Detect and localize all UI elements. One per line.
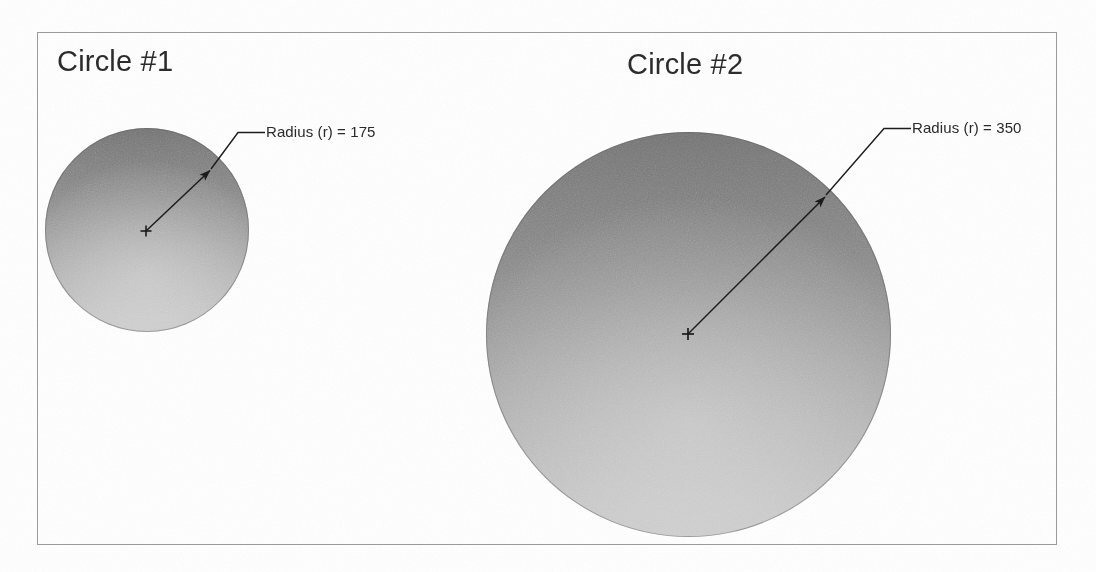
circle-1-radius-label: Radius (r) = 175 <box>266 124 376 139</box>
circle-1-vignette <box>45 128 249 332</box>
circle-1-title: Circle #1 <box>57 47 173 76</box>
circle-2-radius-label: Radius (r) = 350 <box>912 120 1022 135</box>
circle-2-vignette <box>486 132 891 537</box>
page-background: Circle #1 Circle #2 <box>0 0 1096 572</box>
circle-1-shape <box>45 128 249 332</box>
circle-2-title: Circle #2 <box>627 50 743 79</box>
circle-2-shape <box>486 132 891 537</box>
